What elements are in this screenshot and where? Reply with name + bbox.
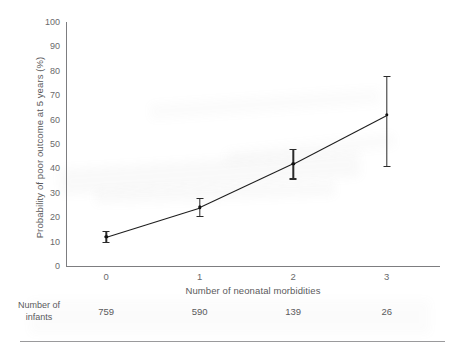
data-point-marker bbox=[198, 206, 201, 209]
counts-table: Number of infants 75959013926 bbox=[0, 300, 450, 330]
error-bar-cap bbox=[196, 198, 203, 199]
x-axis-line bbox=[66, 266, 440, 267]
plot-area: 0102030405060708090100 0123 bbox=[66, 22, 440, 266]
x-tick-label: 1 bbox=[197, 271, 202, 282]
y-axis-line bbox=[66, 22, 67, 266]
error-bar-cap bbox=[290, 149, 297, 150]
error-bar-cap bbox=[103, 231, 110, 232]
y-tick-label: 100 bbox=[45, 17, 60, 27]
series-line-segment bbox=[293, 115, 387, 165]
y-tick-label: 50 bbox=[50, 139, 60, 149]
figure-container: Probability of poor outcome at 5 years (… bbox=[0, 0, 450, 349]
x-tick-label: 2 bbox=[291, 271, 296, 282]
error-bar-cap bbox=[383, 166, 390, 167]
y-tick-label: 70 bbox=[50, 90, 60, 100]
x-tick-label: 3 bbox=[384, 271, 389, 282]
error-bar-cap bbox=[290, 178, 297, 179]
y-tick-label: 30 bbox=[50, 188, 60, 198]
y-tick-label: 60 bbox=[50, 115, 60, 125]
y-tick-label: 10 bbox=[50, 237, 60, 247]
error-bar-cap bbox=[103, 242, 110, 243]
y-tick-label: 80 bbox=[50, 66, 60, 76]
x-axis-title: Number of neonatal morbidities bbox=[66, 285, 440, 296]
error-bar-cap bbox=[196, 216, 203, 217]
y-tick-label: 90 bbox=[50, 41, 60, 51]
counts-label-line1: Number of bbox=[18, 300, 60, 310]
error-bar-cap bbox=[383, 76, 390, 77]
series-line-segment bbox=[106, 207, 200, 238]
y-tick-label: 0 bbox=[55, 261, 60, 271]
x-tick-label: 0 bbox=[104, 271, 109, 282]
data-point-marker bbox=[385, 113, 388, 116]
count-value: 759 bbox=[98, 306, 114, 317]
y-tick-label: 20 bbox=[50, 212, 60, 222]
error-bar bbox=[386, 76, 387, 166]
y-tick-label: 40 bbox=[50, 163, 60, 173]
bottom-divider bbox=[20, 341, 445, 342]
series-line-segment bbox=[199, 164, 293, 209]
counts-table-label: Number of infants bbox=[8, 300, 70, 323]
count-value: 590 bbox=[192, 306, 208, 317]
counts-label-line2: infants bbox=[26, 312, 53, 322]
count-value: 26 bbox=[381, 306, 392, 317]
count-value: 139 bbox=[285, 306, 301, 317]
y-axis-title: Probability of poor outcome at 5 years (… bbox=[34, 33, 45, 263]
